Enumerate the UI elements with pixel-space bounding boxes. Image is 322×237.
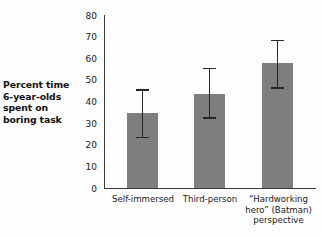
x-tick-label-line: “Hardworking (236, 194, 321, 205)
y-tick-label: 10 (0, 162, 104, 172)
y-tick-label: 40 (0, 97, 104, 107)
error-bar-line (209, 68, 211, 118)
error-bar-cap (136, 137, 149, 139)
error-bar-line (142, 89, 144, 136)
error-bar-line (277, 40, 279, 87)
error-bar-cap (203, 68, 216, 70)
x-tick-label-line: perspective (236, 215, 321, 226)
x-tick-label-line: hero” (Batman) (236, 205, 321, 216)
bar-chart-figure: Percent time 6-year-olds spent on boring… (0, 0, 322, 237)
y-tick-label: 50 (0, 75, 104, 85)
y-tick-label: 70 (0, 32, 104, 42)
y-tick-label: 20 (0, 140, 104, 150)
y-tick-label: 60 (0, 54, 104, 64)
error-bar-cap (271, 40, 284, 42)
error-bar-cap (203, 117, 216, 119)
error-bar-cap (271, 87, 284, 89)
x-tick-label-2: “Hardworking hero” (Batman) perspective (236, 194, 321, 226)
y-axis-tick-labels: 0 10 20 30 40 50 60 70 80 (0, 0, 104, 237)
y-tick-label: 30 (0, 119, 104, 129)
error-bar-cap (136, 89, 149, 91)
y-tick-label: 80 (0, 11, 104, 21)
y-tick-label: 0 (0, 184, 104, 194)
y-axis-line (104, 15, 105, 189)
